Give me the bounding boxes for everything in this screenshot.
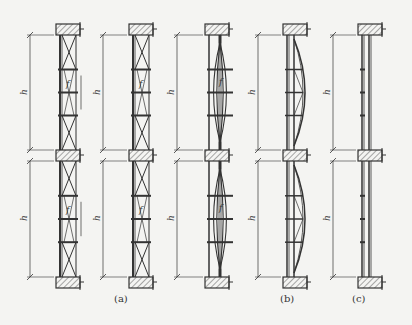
- height-label: h: [19, 89, 29, 95]
- slab-hatched: [129, 24, 153, 35]
- height-label: h: [19, 215, 29, 221]
- slab-hatched: [358, 277, 382, 288]
- slab-hatched: [358, 24, 382, 35]
- caption-c: (c): [352, 293, 365, 304]
- slab-hatched: [129, 277, 153, 288]
- height-label: h: [166, 89, 176, 95]
- sag-label: f: [66, 205, 69, 215]
- sag-label: f: [139, 205, 142, 215]
- sag-label: f: [139, 79, 142, 89]
- slab-hatched: [56, 24, 80, 35]
- caption-b: (b): [280, 293, 294, 304]
- slab-hatched: [283, 24, 307, 35]
- height-label: h: [92, 215, 102, 221]
- slab-hatched: [205, 150, 229, 161]
- slab-hatched: [358, 150, 382, 161]
- caption-a: (a): [114, 293, 128, 304]
- height-label: h: [322, 89, 332, 95]
- sag-label: f: [219, 77, 222, 87]
- slab-hatched: [283, 150, 307, 161]
- height-label: h: [322, 215, 332, 221]
- slab-hatched: [56, 277, 80, 288]
- slab-hatched: [205, 24, 229, 35]
- height-label: h: [247, 215, 257, 221]
- slab-hatched: [205, 277, 229, 288]
- height-label: h: [166, 215, 176, 221]
- height-label: h: [92, 89, 102, 95]
- sag-label: f: [66, 79, 69, 89]
- slab-hatched: [283, 277, 307, 288]
- height-label: h: [247, 89, 257, 95]
- sag-label: f: [219, 203, 222, 213]
- slab-hatched: [129, 150, 153, 161]
- structural-diagram: [0, 0, 412, 325]
- slab-hatched: [56, 150, 80, 161]
